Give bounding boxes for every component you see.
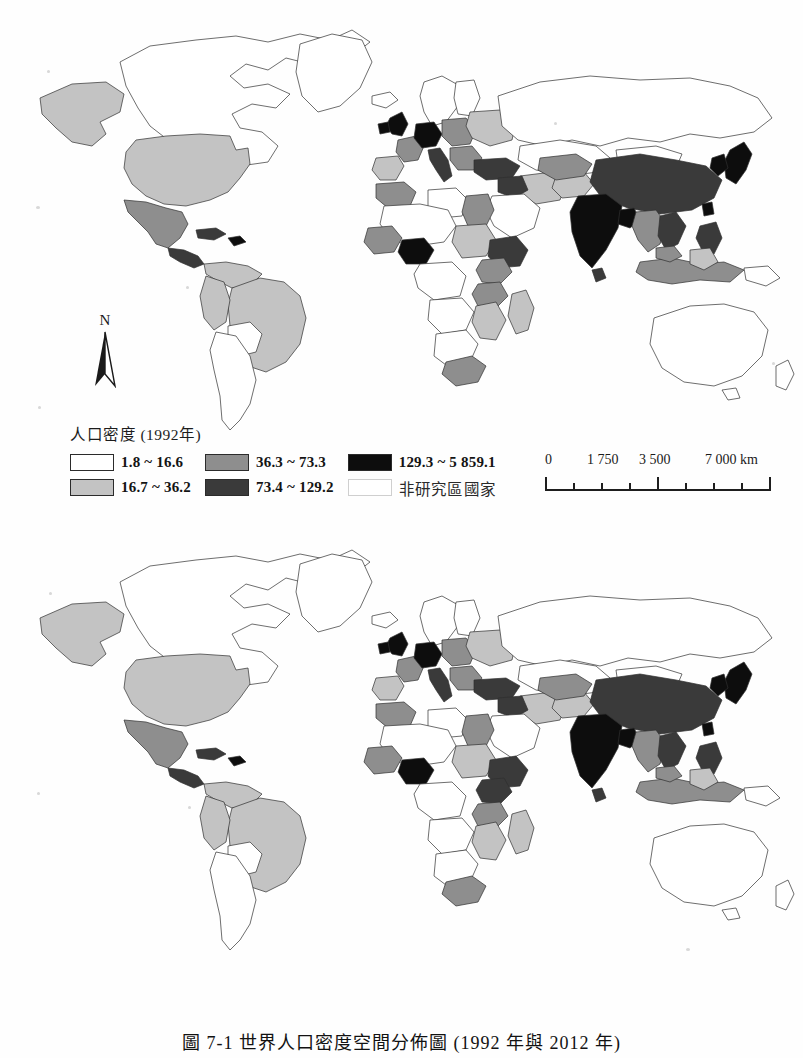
region-australia — [650, 304, 768, 386]
legend-swatch — [348, 479, 392, 496]
region-new-zealand — [776, 360, 794, 390]
scan-speckle — [772, 362, 775, 365]
region-angola-zambia — [428, 818, 474, 854]
region-iberia — [372, 156, 404, 180]
region-mexico — [124, 200, 188, 248]
scan-speckle — [49, 592, 52, 595]
region-saudi — [486, 194, 540, 238]
scale-bar-1992: 0 1 750 3 500 7 000 km — [545, 452, 771, 491]
figure-caption: 圖 7-1 世界人口密度空間分佈圖 (1992 年與 2012 年) — [0, 1028, 803, 1054]
scan-speckle — [188, 806, 191, 809]
legend-label: 非研究區國家 — [399, 477, 496, 499]
region-saudi — [486, 714, 540, 758]
region-angola-zambia — [428, 298, 474, 334]
region-congo — [414, 782, 466, 820]
region-italy — [428, 668, 452, 702]
legend-item: 73.4 ~ 129.2 — [205, 479, 334, 496]
region-taiwan — [702, 722, 714, 736]
scan-speckle — [686, 948, 690, 951]
scale-label: 3 500 — [639, 452, 671, 468]
region-tasmania — [722, 908, 740, 920]
scan-speckle — [38, 406, 41, 409]
map-panel-1992: N 人口密度 (1992年) 1.8 ~ 16.6 36.3 ~ 73.3 12… — [0, 0, 803, 520]
region-russia — [498, 76, 772, 146]
region-morocco-algeria — [376, 182, 416, 208]
region-egypt — [462, 194, 494, 226]
legend-entries: 1.8 ~ 16.6 36.3 ~ 73.3 129.3 ~ 5 859.1 1… — [70, 450, 496, 500]
region-united-states — [124, 134, 250, 206]
legend-title: 人口密度 (1992年) — [70, 422, 496, 444]
region-hispaniola — [228, 236, 246, 246]
legend-1992: 人口密度 (1992年) 1.8 ~ 16.6 36.3 ~ 73.3 129.… — [70, 422, 496, 500]
region-japan — [724, 142, 752, 184]
region-russia — [498, 596, 772, 666]
region-kenya-uganda — [476, 258, 512, 284]
scan-speckle — [47, 70, 50, 73]
region-australia — [650, 824, 768, 906]
region-cuba — [196, 748, 226, 760]
region-iceland — [372, 612, 398, 628]
region-madagascar — [508, 290, 534, 334]
legend-item: 129.3 ~ 5 859.1 — [348, 454, 496, 471]
legend-label: 36.3 ~ 73.3 — [256, 454, 326, 471]
region-ireland — [378, 122, 390, 134]
scan-speckle — [554, 122, 557, 125]
region-japan — [724, 662, 752, 704]
legend-swatch — [205, 479, 249, 496]
region-united-states — [124, 654, 250, 726]
region-alaska — [40, 602, 124, 666]
scan-speckle — [36, 206, 40, 209]
region-finland — [454, 80, 480, 116]
legend-label: 129.3 ~ 5 859.1 — [399, 454, 496, 471]
region-png — [744, 266, 780, 286]
legend-swatch — [70, 454, 114, 471]
region-india — [570, 194, 622, 268]
region-egypt — [462, 714, 494, 746]
region-central-america — [168, 768, 204, 788]
region-mexico — [124, 720, 188, 768]
region-new-zealand — [776, 880, 794, 910]
region-greenland — [296, 554, 372, 632]
legend-swatch — [70, 479, 114, 496]
legend-swatch — [205, 454, 249, 471]
region-greenland — [296, 34, 372, 112]
scan-speckle — [37, 792, 40, 795]
region-scandinavia — [420, 76, 460, 126]
region-vietnam — [658, 212, 686, 250]
region-cuba — [196, 228, 226, 240]
scale-label: 1 750 — [587, 452, 619, 468]
region-ireland — [378, 642, 390, 654]
region-alaska — [40, 82, 124, 146]
region-india — [570, 714, 622, 788]
scale-bar-labels: 0 1 750 3 500 7 000 km — [545, 452, 771, 470]
north-arrow-1992: N — [82, 312, 128, 390]
region-kenya-uganda — [476, 778, 512, 804]
north-arrow-glyph — [82, 330, 128, 388]
region-mozambique — [472, 822, 506, 860]
legend-item: 36.3 ~ 73.3 — [205, 454, 334, 471]
region-mozambique — [472, 302, 506, 340]
region-congo — [414, 262, 466, 300]
region-iceland — [372, 92, 398, 108]
scale-label: 0 — [545, 452, 552, 468]
north-arrow-label: N — [82, 312, 128, 328]
legend-label: 73.4 ~ 129.2 — [256, 479, 334, 496]
legend-item: 非研究區國家 — [348, 477, 496, 499]
region-morocco-algeria — [376, 702, 416, 728]
legend-swatch — [348, 454, 392, 471]
map-panel-2012: N 人口密度 (2012年) 2.7 ~ 20.2 57.3 ~ 91.7 18… — [0, 520, 803, 1030]
legend-label: 16.7 ~ 36.2 — [121, 479, 191, 496]
legend-label: 1.8 ~ 16.6 — [121, 454, 183, 471]
figure-page: N 人口密度 (1992年) 1.8 ~ 16.6 36.3 ~ 73.3 12… — [0, 0, 803, 1058]
region-sri-lanka — [592, 268, 606, 282]
world-map-2012 — [0, 520, 803, 1030]
region-tasmania — [722, 388, 740, 400]
legend-item: 16.7 ~ 36.2 — [70, 479, 191, 496]
region-sri-lanka — [592, 788, 606, 802]
region-iberia — [372, 676, 404, 700]
scale-bar-rule — [545, 473, 771, 491]
legend-item: 1.8 ~ 16.6 — [70, 454, 191, 471]
scan-speckle — [186, 286, 189, 289]
region-finland — [454, 600, 480, 636]
region-vietnam — [658, 732, 686, 770]
